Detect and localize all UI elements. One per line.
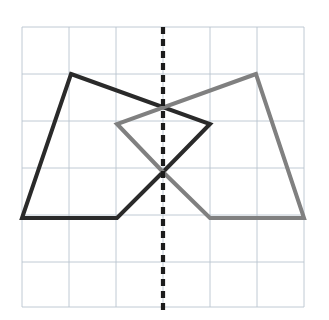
geometry-figure [0,0,329,320]
figure-container [0,0,329,320]
reflected-pentagon [117,74,304,218]
